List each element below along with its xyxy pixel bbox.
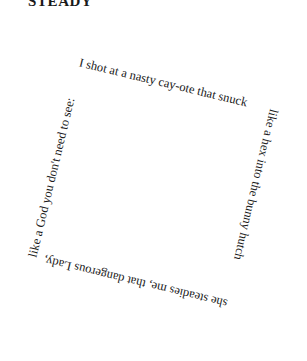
poem-line-top: I shot at a nasty cay-ote that snuck bbox=[78, 57, 275, 116]
poem-line-bottom: she steadies me, that dangerous Lady, bbox=[31, 251, 228, 310]
poem-line-right: like a hex into the bunny hutch bbox=[221, 108, 280, 305]
poem-line-right-text: like a hex into the bunny hutch bbox=[232, 108, 280, 261]
poem-line-bottom-text: she steadies me, that dangerous Lady, bbox=[43, 254, 229, 310]
poem-square-frame: I shot at a nasty cay-ote that snuck lik… bbox=[33, 59, 274, 300]
poem-line-left-text: like a God you don't need to see: bbox=[27, 96, 77, 258]
concrete-poem: I shot at a nasty cay-ote that snuck lik… bbox=[0, 0, 307, 361]
poem-line-left: like a God you don't need to see: bbox=[27, 61, 86, 258]
poem-line-top-text: I shot at a nasty cay-ote that snuck bbox=[78, 57, 249, 109]
